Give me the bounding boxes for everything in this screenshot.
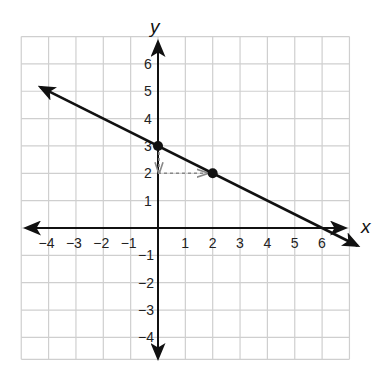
x-tick-label: 3 — [236, 235, 244, 251]
x-tick-label: 6 — [318, 235, 326, 251]
y-tick-label: 4 — [144, 111, 152, 127]
data-point — [208, 168, 218, 178]
y-tick-label: −1 — [138, 247, 154, 263]
x-tick-label: 1 — [181, 235, 189, 251]
grid — [21, 37, 349, 360]
y-tick-label: 1 — [144, 193, 152, 209]
y-tick-label: −2 — [138, 275, 154, 291]
x-tick-label: 5 — [291, 235, 299, 251]
line-y-equals-neg-half-x-plus-3 — [40, 87, 357, 246]
x-tick-label: −1 — [121, 235, 137, 251]
x-tick-label: −2 — [93, 235, 109, 251]
data-point — [153, 141, 163, 151]
y-tick-label: 2 — [144, 165, 152, 181]
y-tick-label: 5 — [144, 83, 152, 99]
x-tick-label: −3 — [66, 235, 82, 251]
slope-annotations — [158, 152, 207, 173]
x-tick-label: −4 — [39, 235, 55, 251]
x-tick-label: 2 — [209, 235, 217, 251]
line-series — [40, 87, 357, 246]
y-tick-label: 6 — [144, 56, 152, 72]
x-axis-label: x — [360, 216, 372, 237]
y-tick-label: −4 — [138, 329, 154, 345]
y-axis-label: y — [148, 16, 161, 37]
y-tick-label: −3 — [138, 302, 154, 318]
x-tick-label: 4 — [263, 235, 271, 251]
coordinate-plane: −4−3−2−1123456654321−1−2−3−4 y x — [0, 0, 387, 367]
